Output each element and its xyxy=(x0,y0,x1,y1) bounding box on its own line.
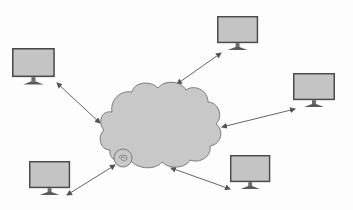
monitor-icon xyxy=(29,161,70,195)
edge-top-middle xyxy=(177,53,221,84)
edge-right xyxy=(222,109,295,127)
edge-bottom-right xyxy=(171,168,230,189)
network-cloud-icon xyxy=(100,82,221,168)
computer-top-left xyxy=(12,48,55,84)
computer-right xyxy=(293,73,335,107)
network-diagram: Network cloud connected to five computer… xyxy=(0,0,353,210)
monitor-icon xyxy=(12,48,55,84)
monitor-icon xyxy=(230,155,270,189)
monitor-icon xyxy=(217,16,258,50)
monitor-icon xyxy=(293,73,335,107)
diagram-canvas xyxy=(0,0,353,210)
edge-top-left xyxy=(57,83,100,123)
computer-bottom-right xyxy=(230,155,270,189)
computer-bottom-left xyxy=(29,161,70,195)
edge-bottom-left xyxy=(67,165,115,195)
computer-top-middle xyxy=(217,16,258,50)
